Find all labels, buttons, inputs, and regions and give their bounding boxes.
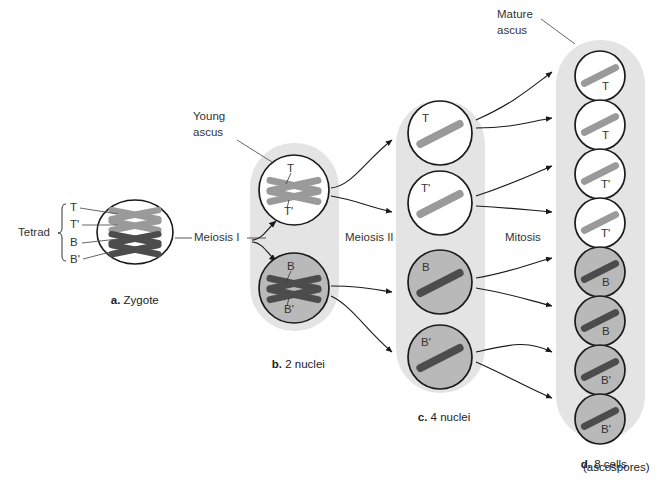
tetrad-chromatid-label-b: B (70, 236, 78, 249)
caption-zygote: a. Zygote (98, 282, 159, 318)
meiosis-ii-label: Meiosis II (345, 231, 394, 244)
two-nuclei-label-b-prime: B' (284, 303, 294, 316)
young-ascus-leader (237, 140, 272, 162)
caption-four-nuclei: c. 4 nuclei (405, 399, 470, 435)
four-nuclei-label-2: T' (421, 182, 430, 195)
mature-ascus-label-line2: ascus (497, 24, 527, 37)
eight-cells-label-5: B (602, 276, 610, 289)
caption-four-nuclei-letter: c. (418, 411, 428, 423)
tetrad-bracket (58, 204, 66, 261)
meiosis-i-label: Meiosis I (194, 231, 239, 244)
tetrad-chromatid-label-b-prime: B' (70, 253, 80, 266)
four-nuclei-cell-3 (408, 250, 472, 314)
figure-canvas: Tetrad T T' B B' a. Zygote Meiosis I You… (0, 0, 666, 482)
eight-cells-label-6: B (602, 325, 610, 338)
eight-cells-label-3: T' (601, 178, 610, 191)
tetrad-chromatid-label-t: T (70, 201, 77, 214)
young-ascus-label-line2: ascus (193, 126, 223, 139)
eight-cells-cell-6 (575, 296, 625, 346)
eight-cells-cell-8 (575, 394, 625, 444)
eight-cells-label-1: T (602, 80, 609, 93)
eight-cells-cell-2 (575, 100, 625, 150)
caption-two-nuclei: b. 2 nuclei (259, 346, 325, 382)
caption-zygote-text: Zygote (120, 294, 158, 306)
four-nuclei-cell-4 (408, 325, 472, 389)
two-nuclei-label-b: B (287, 260, 295, 273)
eight-cells-cell-1 (575, 51, 625, 101)
tetrad-chromatid-label-t-prime: T' (70, 218, 79, 231)
four-nuclei-label-3: B (422, 261, 430, 274)
four-nuclei-cell-1 (408, 101, 472, 165)
tetrad-label: Tetrad (18, 226, 50, 239)
caption-zygote-letter: a. (111, 294, 121, 306)
caption-four-nuclei-text: 4 nuclei (427, 411, 470, 423)
two-nuclei-label-t: T (287, 162, 294, 175)
eight-cells-label-8: B' (601, 423, 611, 436)
eight-cells-cell-5 (575, 247, 625, 297)
caption-eight-cells-line2: (ascospores) (583, 461, 649, 473)
mitosis-label: Mitosis (505, 231, 541, 244)
eight-cells-label-4: T' (601, 227, 610, 240)
eight-cells-label-2: T (602, 129, 609, 142)
two-nuclei-label-t-prime: T' (284, 205, 293, 218)
zygote-cell (97, 200, 173, 264)
meiosis-ii-arrows (331, 140, 392, 352)
eight-cells-cell-3 (575, 149, 625, 199)
mature-ascus-label-line1: Mature (497, 8, 533, 21)
eight-cells-cell-4 (575, 198, 625, 248)
meiosis-diagram (0, 0, 666, 482)
four-nuclei-label-1: T (422, 112, 429, 125)
eight-cells-cell-7 (575, 345, 625, 395)
four-nuclei-cell-2 (408, 171, 472, 235)
caption-two-nuclei-letter: b. (272, 358, 282, 370)
mature-ascus-leader (541, 19, 575, 44)
four-nuclei-label-4: B' (421, 336, 431, 349)
caption-two-nuclei-text: 2 nuclei (282, 358, 325, 370)
eight-cells-label-7: B' (601, 374, 611, 387)
young-ascus-label-line1: Young (193, 110, 225, 123)
